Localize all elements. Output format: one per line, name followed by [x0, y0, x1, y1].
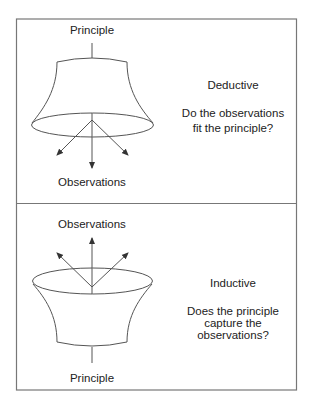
deductive-question-line-2: fit the principle?	[193, 122, 274, 134]
deductive-title: Deductive	[207, 79, 258, 91]
deductive-arrow-left	[57, 120, 92, 155]
deductive-arrow-right	[92, 120, 128, 155]
inductive-question-line-3: observations?	[197, 329, 269, 341]
inductive-question-line-2: capture the	[204, 317, 262, 329]
inductive-bottom-label: Principle	[70, 372, 114, 384]
inductive-top-label: Observations	[58, 218, 126, 230]
deductive-question-line-1: Do the observations	[182, 107, 285, 119]
deductive-bottom-label: Observations	[58, 176, 126, 188]
deductive-top-label: Principle	[70, 24, 114, 36]
inductive-panel: Observations Principle Inductive Does th…	[33, 218, 280, 384]
deductive-inductive-diagram: Principle Observations Deductive Do the …	[0, 0, 314, 406]
inductive-title: Inductive	[210, 277, 256, 289]
deductive-panel: Principle Observations Deductive Do the …	[32, 24, 285, 188]
inductive-question-line-1: Does the principle	[187, 305, 279, 317]
